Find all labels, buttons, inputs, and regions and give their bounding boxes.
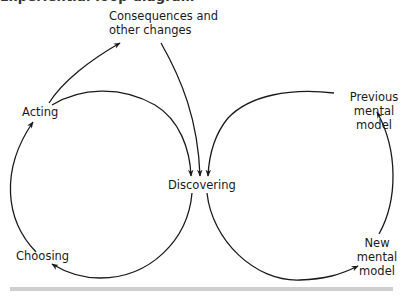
node-choosing: Choosing [16,249,69,263]
edge-acting-to-discovering [52,91,191,176]
node-discovering: Discovering [168,178,236,192]
bottom-divider [10,287,393,291]
edge-acting-to-consequences [49,43,120,103]
node-acting: Acting [22,105,58,119]
node-consequences-line-2: other changes [109,23,218,37]
edge-consequences-to-discovering [161,43,200,176]
edge-discovering-to-choosing [52,193,192,278]
node-new-model: New mental model [355,236,399,278]
edge-discovering-to-new-model [207,193,358,280]
node-previous-model-line-1: Previous [348,90,400,104]
node-previous-model-line-2: mental [348,104,400,118]
node-new-model-line-1: New [355,236,399,250]
node-new-model-line-3: model [355,264,399,278]
node-previous-model-line-3: model [348,118,400,132]
node-previous-model: Previous mental model [348,90,400,132]
edge-choosing-to-acting [10,122,36,252]
node-consequences: Consequences and other changes [109,9,218,37]
node-new-model-line-2: mental [355,250,399,264]
node-consequences-line-1: Consequences and [109,9,218,23]
edge-previous-to-discovering [208,91,334,176]
